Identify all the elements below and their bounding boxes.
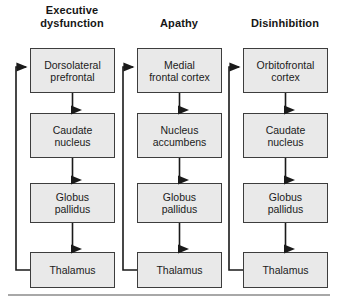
feedback-loop-col2 [123,67,137,270]
node-caudate-nucleus-col3: Caudate nucleus [243,113,328,158]
feedback-loop-col1 [16,67,30,270]
node-globus-pallidus-col2: Globus pallidus [137,183,222,223]
bottom-divider [8,294,330,296]
node-caudate-nucleus-col1: Caudate nucleus [30,113,115,158]
node-globus-pallidus-col3: Globus pallidus [243,183,328,223]
node-thalamus-col3: Thalamus [243,252,328,288]
node-thalamus-col1: Thalamus [30,252,115,288]
node-dorsolateral-prefrontal: Dorsolateral prefrontal [30,48,115,93]
node-globus-pallidus-col1: Globus pallidus [30,183,115,223]
column-title-apathy: Apathy [131,17,227,30]
feedback-loop-col3 [229,67,243,270]
column-title-disinhibition: Disinhibition [235,17,335,30]
node-orbitofrontal-cortex: Orbitofrontal cortex [243,48,328,93]
column-title-executive-dysfunction: Executive dysfunction [19,4,125,29]
circuit-diagram: Executive dysfunction Apathy Disinhibiti… [0,0,338,301]
node-nucleus-accumbens: Nucleus accumbens [137,113,222,158]
node-thalamus-col2: Thalamus [137,252,222,288]
node-medial-frontal-cortex: Medial frontal cortex [137,48,222,93]
